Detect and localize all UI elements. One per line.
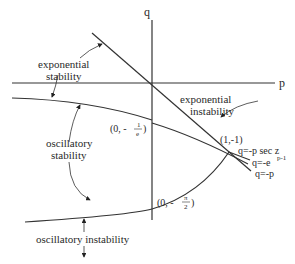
arrow-osc-stability-down bbox=[69, 162, 90, 200]
stability-diagram: p q exponential stability exponential in… bbox=[0, 0, 295, 264]
label-exp-stability-2: stability bbox=[46, 70, 82, 82]
q-axis-label: q bbox=[144, 5, 150, 19]
label-q-sec-z: q=-p sec z bbox=[238, 145, 280, 156]
lower-boundary-curve bbox=[25, 152, 229, 222]
svg-text:2: 2 bbox=[184, 203, 188, 211]
label-exp-stability-1: exponential bbox=[38, 58, 89, 70]
point-label-minus-1-over-e: (0, - 1 e ) bbox=[110, 121, 146, 138]
label-osc-stability-1: oscillatory bbox=[46, 137, 93, 149]
svg-text:): ) bbox=[191, 197, 194, 209]
svg-text:π: π bbox=[184, 194, 188, 202]
svg-text:(0, -: (0, - bbox=[110, 123, 127, 135]
point-label-minus-pi-over-2: (0, - π 2 ) bbox=[157, 194, 194, 211]
svg-text:(0, -: (0, - bbox=[157, 197, 174, 209]
label-q-exp-superscript: p-1 bbox=[277, 154, 287, 162]
label-exp-instability-2: instability bbox=[190, 105, 235, 117]
label-q-minus-p: q=-p bbox=[255, 168, 274, 179]
label-exp-instability-1: exponential bbox=[180, 93, 231, 105]
label-osc-instability: oscillatory instability bbox=[36, 233, 130, 245]
svg-text:1: 1 bbox=[137, 121, 141, 129]
label-q-exp: q=-e bbox=[252, 157, 271, 168]
arrow-exp-stability-up bbox=[80, 44, 102, 58]
label-osc-stability-2: stability bbox=[51, 149, 87, 161]
svg-text:): ) bbox=[143, 123, 146, 135]
upper-boundary-curve bbox=[12, 98, 152, 120]
p-axis-label: p bbox=[279, 76, 285, 90]
svg-text:e: e bbox=[136, 130, 139, 138]
